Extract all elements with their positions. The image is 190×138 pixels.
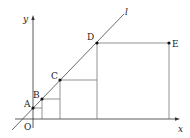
point-a	[31, 106, 34, 109]
point-d-label: D	[87, 32, 94, 42]
point-a-label: A	[23, 99, 31, 109]
point-b-label: B	[33, 90, 40, 100]
point-d	[95, 41, 98, 44]
y-axis-label: y	[22, 14, 29, 24]
x-axis-arrow-icon	[175, 117, 180, 120]
line-l-label: l	[125, 7, 128, 17]
y-axis-arrow-icon	[31, 15, 34, 20]
point-c	[58, 78, 61, 81]
diagram-canvas: y x O l A B C D E	[0, 0, 190, 138]
point-e	[167, 41, 170, 44]
point-b	[40, 97, 43, 100]
construction-lines	[33, 43, 169, 119]
x-axis-label: x	[178, 124, 183, 134]
point-e-label: E	[172, 39, 179, 49]
origin-label: O	[24, 122, 31, 132]
axes	[15, 15, 180, 128]
point-c-label: C	[51, 71, 58, 81]
line-l	[12, 14, 124, 130]
